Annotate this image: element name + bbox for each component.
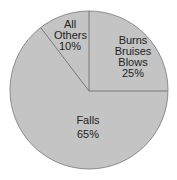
pie-chart: [0, 0, 177, 180]
slice-value: 25%: [100, 68, 166, 79]
slice-label-others: All Others 10%: [54, 19, 86, 52]
slice-label-falls: Falls 65%: [68, 113, 108, 141]
slice-label-burns: Burns Bruises Blows 25%: [100, 35, 166, 79]
slice-value: 65%: [68, 127, 108, 141]
slice-label-line: Falls: [68, 113, 108, 127]
slice-value: 10%: [54, 41, 86, 52]
